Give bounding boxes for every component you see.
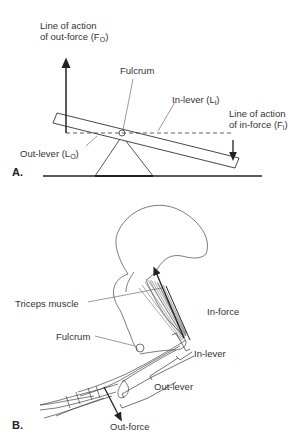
scapula <box>116 205 208 280</box>
panel-label-b: B. <box>12 419 23 431</box>
lever-bar <box>53 113 239 168</box>
label-fulcrum-b: Fulcrum <box>56 331 90 342</box>
label-in-force-b: In-force <box>207 306 239 317</box>
label-in-lever-b: In-lever <box>194 348 226 359</box>
label-triceps-muscle: Triceps muscle <box>15 298 79 309</box>
label-out-force-b: Out-force <box>110 421 150 432</box>
label-out-force-line: Line of action of out-force (FO) <box>40 20 108 45</box>
label-in-lever-a: In-lever (Li) <box>172 94 220 108</box>
elbow-fulcrum <box>136 344 144 352</box>
out-force-arrow-b <box>104 387 120 418</box>
label-in-force-line: Line of action of in-force (Fi) <box>229 108 288 133</box>
label-out-lever-a: Out-lever (LO) <box>20 148 79 162</box>
label-out-lever-b: Out-lever <box>154 381 193 392</box>
panel-label-a: A. <box>12 166 23 178</box>
label-fulcrum-a: Fulcrum <box>120 65 154 76</box>
in-force-arrow-b <box>155 270 184 338</box>
